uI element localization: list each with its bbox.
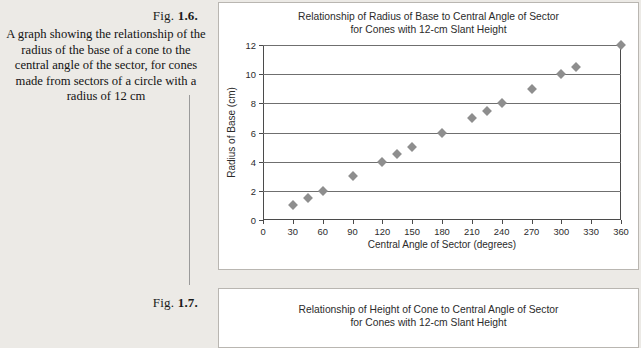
- y-tick-label: 12: [246, 40, 256, 51]
- y-tick-label: 0: [251, 215, 256, 226]
- x-tick-mark: [353, 220, 354, 224]
- x-tick-label: 210: [464, 226, 480, 237]
- x-tick-label: 60: [317, 226, 327, 237]
- x-tick-label: 270: [524, 226, 540, 237]
- x-tick-label: 240: [494, 226, 510, 237]
- data-point-marker: [437, 128, 447, 138]
- y-tick-label: 8: [251, 98, 256, 109]
- figure-label-1-7: Fig. 1.7.: [153, 295, 198, 311]
- x-tick-mark: [412, 220, 413, 224]
- x-tick-mark: [293, 220, 294, 224]
- x-tick-mark: [532, 220, 533, 224]
- chart-title: Relationship of Radius of Base to Centra…: [219, 10, 638, 36]
- x-tick-mark: [621, 220, 622, 224]
- chart-title-line-1: Relationship of Radius of Base to Centra…: [219, 10, 638, 23]
- chart-title-2: Relationship of Height of Cone to Centra…: [219, 303, 638, 329]
- x-tick-label: 300: [554, 226, 570, 237]
- data-point-marker: [527, 84, 537, 94]
- caption-column: Fig. 1.6. A graph showing the relationsh…: [0, 0, 212, 322]
- x-tick-mark: [323, 220, 324, 224]
- x-tick-label: 360: [613, 226, 629, 237]
- x-tick-label: 150: [404, 226, 420, 237]
- x-tick-label: 330: [583, 226, 599, 237]
- x-tick-mark: [502, 220, 503, 224]
- chart-title-2-line-1: Relationship of Height of Cone to Centra…: [219, 303, 638, 316]
- gridline: [263, 191, 621, 192]
- x-tick-mark: [591, 220, 592, 224]
- figure-caption-1-6: A graph showing the relationship of the …: [4, 27, 208, 105]
- gridline: [263, 162, 621, 163]
- x-axis-title: Central Angle of Sector (degrees): [263, 239, 621, 250]
- x-tick-mark: [263, 220, 264, 224]
- y-axis-title-text: Radius of Base (cm): [226, 87, 237, 178]
- chart-title-line-2: for Cones with 12-cm Slant Height: [219, 23, 638, 36]
- y-tick-mark: [259, 45, 263, 46]
- chart-title-2-line-2: for Cones with 12-cm Slant Height: [219, 316, 638, 329]
- data-point-marker: [497, 98, 507, 108]
- gridline: [263, 74, 621, 75]
- y-tick-label: 2: [251, 185, 256, 196]
- figure-label-number: 1.6.: [178, 8, 198, 23]
- x-tick-label: 180: [434, 226, 450, 237]
- x-tick-mark: [472, 220, 473, 224]
- y-tick-mark: [259, 103, 263, 104]
- data-point-marker: [571, 62, 581, 72]
- data-point-marker: [392, 149, 402, 159]
- data-point-marker: [482, 106, 492, 116]
- figure-panel-1-7: Relationship of Height of Cone to Centra…: [218, 288, 639, 348]
- x-tick-mark: [382, 220, 383, 224]
- y-tick-label: 6: [251, 127, 256, 138]
- y-tick-mark: [259, 133, 263, 134]
- x-tick-label: 0: [260, 226, 265, 237]
- data-point-marker: [377, 157, 387, 167]
- y-tick-mark: [259, 162, 263, 163]
- data-point-marker: [556, 69, 566, 79]
- figure-label-1-6: Fig. 1.6.: [153, 8, 198, 24]
- figure-label-prefix: Fig.: [153, 8, 178, 23]
- y-tick-label: 10: [246, 69, 256, 80]
- x-tick-label: 90: [347, 226, 357, 237]
- data-point-marker: [348, 171, 358, 181]
- x-tick-label: 30: [288, 226, 298, 237]
- data-point-marker: [303, 193, 313, 203]
- data-point-marker: [288, 200, 298, 210]
- column-divider: [189, 95, 190, 285]
- data-point-marker: [616, 40, 626, 50]
- y-tick-mark: [259, 74, 263, 75]
- data-point-marker: [467, 113, 477, 123]
- y-tick-mark: [259, 191, 263, 192]
- y-axis-title: Radius of Base (cm): [224, 45, 238, 220]
- figure-panel-1-6: Relationship of Radius of Base to Centra…: [218, 2, 639, 270]
- x-tick-label: 120: [375, 226, 391, 237]
- figure-label-number-2: 1.7.: [178, 295, 198, 310]
- gridline: [263, 45, 621, 46]
- y-tick-label: 4: [251, 156, 256, 167]
- x-tick-mark: [442, 220, 443, 224]
- gridline: [263, 103, 621, 104]
- x-tick-mark: [561, 220, 562, 224]
- data-point-marker: [407, 142, 417, 152]
- data-point-marker: [318, 186, 328, 196]
- plot-area: 024681012 030609012015018021024027030033…: [263, 45, 621, 220]
- figure-label-prefix-2: Fig.: [153, 295, 178, 310]
